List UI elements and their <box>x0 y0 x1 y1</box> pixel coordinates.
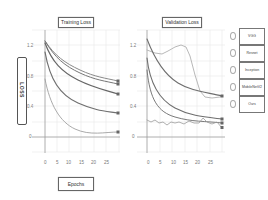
legend-label: Inception <box>239 62 265 79</box>
legend-label: VGG <box>239 28 265 45</box>
right-plot-axes <box>137 30 225 153</box>
legend-item-resnet[interactable]: Resnet <box>228 45 266 62</box>
val-inception-line <box>147 58 222 119</box>
val-vgg-line <box>147 45 222 98</box>
legend-circle-icon <box>230 66 236 74</box>
legend-item-ours[interactable]: Ours <box>228 96 266 113</box>
legend-item-vgg[interactable]: VGG <box>228 28 266 45</box>
val-resnet-line <box>147 39 222 96</box>
val-mobilenet-line <box>147 70 222 123</box>
train-inception-line <box>45 43 118 94</box>
right-plot-grid <box>137 30 225 152</box>
legend-circle-icon <box>230 83 236 91</box>
legend-circle-icon <box>230 32 236 40</box>
left-series <box>45 41 120 134</box>
legend-item-mobilenetv2[interactable]: MobileNetV2 <box>228 79 266 96</box>
legend-circle-icon <box>230 100 236 108</box>
legend-item-inception[interactable]: Inception <box>228 62 266 79</box>
legend: VGG Resnet Inception MobileNetV2 Ours <box>228 28 266 113</box>
legend-label: Ours <box>239 96 265 113</box>
left-plot-axes <box>32 30 120 153</box>
legend-label: MobileNetV2 <box>239 79 265 96</box>
legend-label: Resnet <box>239 45 265 62</box>
legend-circle-icon <box>230 49 236 57</box>
